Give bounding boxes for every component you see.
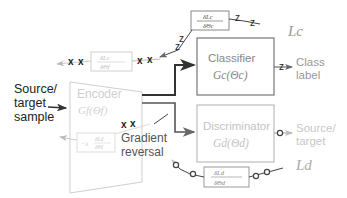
x-marker: x [68, 56, 74, 67]
grad-rev-numerator: δLd [95, 136, 104, 142]
z-marker: z [279, 61, 284, 72]
o-marker [264, 169, 269, 174]
x-marker: x [78, 56, 84, 67]
grad-c-numerator: δLc [203, 13, 213, 20]
grad-c-denominator: δΘc [203, 22, 214, 29]
class-label-output: Class label [296, 56, 325, 82]
x-path-left [57, 61, 91, 64]
reversal-link [154, 114, 168, 124]
x-marker: x [130, 118, 136, 129]
grad-d-numerator: δLd [214, 169, 225, 176]
encoder-title: Encoder [77, 88, 122, 101]
o-marker [173, 162, 178, 167]
discriminator-block [197, 105, 274, 162]
grad-f-denominator: δΘf [100, 63, 111, 70]
z-marker: z [235, 12, 240, 23]
o-marker [253, 173, 258, 178]
grad-d-denominator: δΘd [214, 179, 226, 186]
encoder-to-classifier-line [142, 65, 194, 95]
encoder-gradient-box [91, 52, 132, 71]
lc-gradient-path [229, 19, 260, 24]
classifier-loss: Lc [288, 25, 303, 38]
z-marker: z [175, 41, 180, 52]
discriminator-loss: Ld [296, 159, 312, 172]
gradient-reversal-label: Gradient reversal [121, 131, 167, 159]
classifier-title: Classifier [208, 52, 255, 65]
discriminator-formula: Gd(Θd) [213, 137, 249, 150]
classifier-formula: Gc(Θc) [213, 69, 247, 82]
encoder-to-discriminator-line [142, 103, 194, 132]
x-marker: x [147, 54, 153, 65]
x-marker: x [137, 55, 143, 66]
o-marker [190, 171, 195, 176]
z-marker: z [250, 17, 255, 28]
discriminator-title: Discriminator [203, 120, 270, 133]
x-marker: x [121, 119, 127, 130]
encoder-formula: Gf(Θf) [78, 104, 107, 117]
domain-label-output: Source/ target [296, 122, 336, 148]
grad-f-numerator: δLc [100, 54, 110, 61]
reversed-gradient-arrow [60, 137, 77, 140]
classifier-block [197, 38, 274, 95]
o-marker [277, 130, 282, 135]
input-label: Source/ target sample [14, 82, 57, 124]
grad-rev-prefix: −λ [81, 140, 88, 147]
